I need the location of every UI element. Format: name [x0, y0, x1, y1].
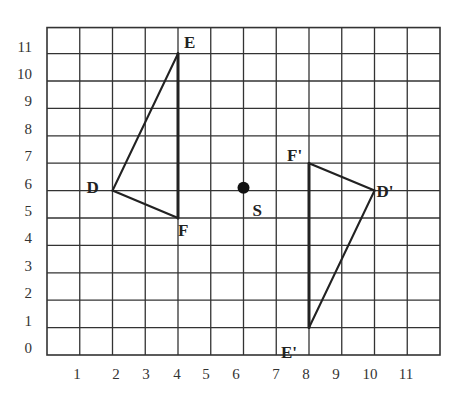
x-axis-label: 8	[302, 366, 310, 382]
y-axis-label: 5	[25, 203, 33, 219]
x-axis-label: 6	[232, 366, 240, 382]
x-axis-label: 7	[272, 366, 280, 382]
x-axis-label: 1	[73, 366, 81, 382]
vertex-label: E'	[281, 343, 297, 362]
vertex-label: D	[87, 178, 99, 197]
x-axis-label: 9	[332, 366, 340, 382]
vertex-label: D'	[377, 182, 394, 201]
x-axis-label: 11	[399, 366, 413, 382]
y-axis-label: 6	[25, 176, 33, 192]
x-axis-label: 4	[173, 366, 181, 382]
coordinate-grid-diagram: 1234567891011 01234567891011 DEFD'E'F' S	[0, 0, 461, 399]
y-axis-label: 9	[25, 93, 33, 109]
center-point-dot	[238, 182, 250, 194]
y-axis-label: 3	[25, 258, 33, 274]
vertex-label: F	[178, 221, 188, 240]
y-axis-label: 0	[25, 340, 33, 356]
vertex-label: E	[184, 33, 195, 52]
triangle-def-prime: D'E'F'	[281, 146, 394, 361]
y-axis-label: 10	[17, 66, 32, 82]
y-axis-label: 11	[18, 39, 32, 55]
x-axis-label: 2	[112, 366, 120, 382]
x-axis-labels: 1234567891011	[73, 366, 413, 382]
y-axis-label: 7	[25, 148, 33, 164]
x-axis-label: 3	[142, 366, 150, 382]
x-axis-label: 5	[202, 366, 210, 382]
y-axis-label: 1	[25, 313, 33, 329]
y-axis-labels: 01234567891011	[17, 39, 33, 356]
y-axis-label: 8	[25, 121, 33, 137]
vertex-label: F'	[287, 146, 302, 165]
triangles: DEFD'E'F'	[87, 33, 394, 362]
x-axis-label: 10	[363, 366, 378, 382]
y-axis-label: 4	[25, 230, 33, 246]
y-axis-label: 2	[25, 285, 33, 301]
center-point-s: S	[238, 182, 262, 220]
center-point-label: S	[253, 201, 262, 220]
